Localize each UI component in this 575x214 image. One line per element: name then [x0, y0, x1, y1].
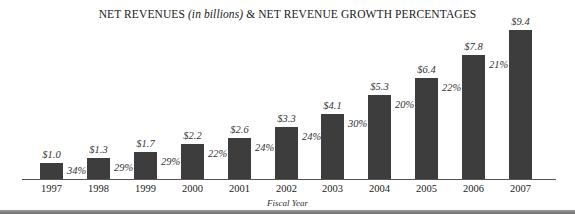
- growth-label: 29%: [161, 156, 180, 167]
- year-tick-label: 2004: [360, 183, 400, 194]
- x-axis-line: [22, 179, 556, 180]
- bar-1997: [40, 163, 63, 179]
- bar-2005: [415, 78, 438, 179]
- x-axis-label: Fiscal Year: [0, 198, 575, 208]
- value-label: $5.3: [360, 81, 400, 92]
- year-tick-label: 2005: [407, 183, 447, 194]
- year-tick-label: 2000: [173, 183, 213, 194]
- bar-2002: [275, 127, 298, 179]
- year-tick-label: 2006: [454, 183, 494, 194]
- growth-label: 34%: [67, 165, 86, 176]
- bar-2000: [181, 144, 204, 179]
- bar-1999: [134, 152, 157, 179]
- value-label: $1.0: [32, 149, 72, 160]
- year-tick-label: 1997: [32, 183, 72, 194]
- bar-1998: [87, 158, 110, 179]
- value-label: $6.4: [407, 64, 447, 75]
- value-label: $4.1: [313, 100, 353, 111]
- value-label: $2.6: [220, 124, 260, 135]
- bar-2003: [321, 114, 344, 179]
- growth-label: 20%: [395, 99, 414, 110]
- bar-2004: [368, 95, 391, 179]
- value-label: $9.4: [501, 16, 541, 27]
- year-tick-label: 1998: [79, 183, 119, 194]
- growth-label: 24%: [302, 131, 321, 142]
- bar-2007: [509, 30, 532, 179]
- growth-label: 29%: [114, 162, 133, 173]
- bar-chart: $1.034%1997$1.329%1998$1.729%1999$2.222%…: [0, 0, 575, 214]
- year-tick-label: 2001: [220, 183, 260, 194]
- growth-label: 22%: [208, 148, 227, 159]
- value-label: $2.2: [173, 130, 213, 141]
- year-tick-label: 2003: [313, 183, 353, 194]
- value-label: $7.8: [454, 41, 494, 52]
- bar-2001: [228, 138, 251, 179]
- year-tick-label: 1999: [126, 183, 166, 194]
- growth-label: 22%: [442, 82, 461, 93]
- value-label: $3.3: [267, 113, 307, 124]
- growth-label: 24%: [255, 142, 274, 153]
- growth-label: 30%: [348, 118, 367, 129]
- value-label: $1.7: [126, 138, 166, 149]
- year-tick-label: 2002: [267, 183, 307, 194]
- value-label: $1.3: [79, 144, 119, 155]
- bar-2006: [462, 55, 485, 179]
- growth-label: 21%: [489, 59, 508, 70]
- year-tick-label: 2007: [501, 183, 541, 194]
- footer-divider: [0, 210, 575, 214]
